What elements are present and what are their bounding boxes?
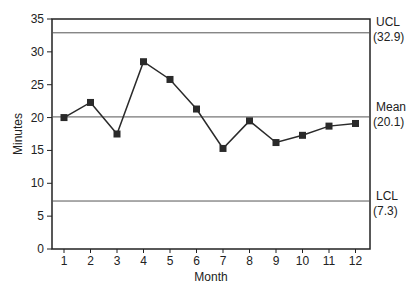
mean-value: (20.1) [373,115,404,129]
plot-frame [52,19,370,249]
y-tick-label: 5 [37,209,44,223]
x-tick-label: 8 [246,254,253,268]
x-tick-label: 3 [114,254,121,268]
y-tick-label: 0 [37,242,44,256]
data-point-marker [114,131,121,138]
ucl-value: (32.9) [373,30,404,44]
y-tick-label: 10 [31,176,45,190]
y-tick-label: 20 [31,111,45,125]
x-tick-label: 1 [61,254,68,268]
data-point-marker [61,114,68,121]
lcl-value: (7.3) [373,204,398,218]
data-point-marker [326,123,333,130]
x-tick-label: 9 [273,254,280,268]
data-point-marker [352,120,359,127]
data-point-marker [246,117,253,124]
data-point-marker [167,76,174,83]
data-point-marker [299,132,306,139]
data-line [64,62,356,149]
data-point-marker [140,58,147,65]
data-point-marker [193,106,200,113]
x-tick-label: 12 [349,254,363,268]
y-tick-label: 35 [31,12,45,26]
x-tick-label: 2 [87,254,94,268]
x-axis-label: Month [194,270,227,284]
y-tick-label: 15 [31,143,45,157]
x-tick-label: 6 [193,254,200,268]
y-axis-label: Minutes [11,113,25,155]
y-tick-label: 30 [31,45,45,59]
x-tick-label: 4 [140,254,147,268]
data-point-marker [87,99,94,106]
data-point-marker [220,145,227,152]
y-tick-label: 25 [31,78,45,92]
x-tick-label: 5 [167,254,174,268]
mean-label: Mean [376,100,406,114]
control-chart: UCL(32.9)Mean(20.1)LCL(7.3)0510152025303… [0,0,416,293]
lcl-label: LCL [376,189,398,203]
x-tick-label: 10 [296,254,310,268]
x-tick-label: 11 [323,254,336,268]
x-tick-label: 7 [220,254,227,268]
ucl-label: UCL [376,15,400,29]
data-point-marker [273,139,280,146]
